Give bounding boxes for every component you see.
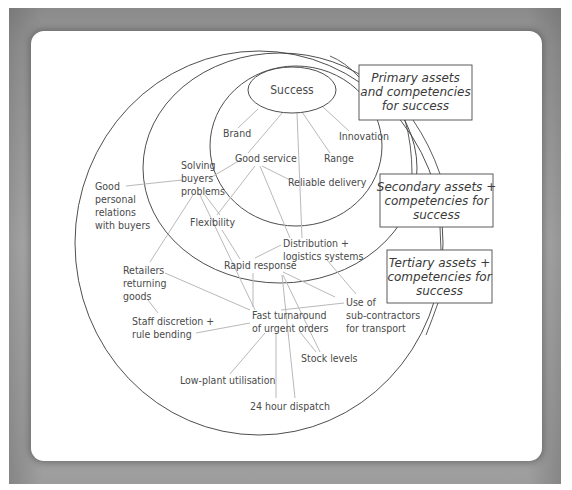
legend-box-tertiary: Tertiary assets +competencies forsuccess <box>387 250 493 303</box>
legend-box-line: Primary assets <box>371 71 460 85</box>
node-rapid-response: Rapid response <box>224 259 297 271</box>
node-label-line: Use of <box>346 296 376 308</box>
connector-distribution-logistics-to-rapid-response <box>255 245 281 258</box>
node-label-line: Low-plant utilisation <box>180 374 275 386</box>
node-flexibility: Flexibility <box>190 216 235 228</box>
node-innovation: Innovation <box>339 130 389 142</box>
legend-box-line: competencies for <box>384 194 489 208</box>
node-label-line: 24 hour dispatch <box>250 400 330 412</box>
connector-solving-buyers-problems-to-good-personal-relations <box>126 180 182 186</box>
connector-success-to-good-service <box>248 112 283 153</box>
node-low-plant-utilisation: Low-plant utilisation <box>180 374 275 386</box>
node-label-line: Staff discretion + <box>132 315 214 327</box>
node-retailers-returning-goods: Retailersreturninggoods <box>123 264 166 302</box>
success-label: Success <box>270 83 314 97</box>
connector-success-to-brand <box>238 109 258 128</box>
connector-fast-turnaround-to-stock-levels <box>300 332 316 352</box>
connector-solving-buyers-problems-to-flexibility <box>205 195 220 215</box>
node-label-line: with buyers <box>95 219 150 231</box>
node-label-line: for transport <box>346 322 406 334</box>
node-fast-turnaround: Fast turnaroundof urgent orders <box>252 309 328 334</box>
node-brand: Brand <box>223 127 251 139</box>
node-label-line: personal <box>95 193 136 205</box>
legend-box-line: competencies for <box>387 270 492 284</box>
legend-box-line: Secondary assets + <box>377 180 496 194</box>
node-label-line: Reliable delivery <box>288 176 367 188</box>
connector-flexibility-to-rapid-response <box>222 230 240 259</box>
legend-box-line: Tertiary assets + <box>389 256 490 270</box>
connector-distribution-logistics-to-use-of-subcontractors <box>327 260 356 294</box>
tertiary-leader <box>440 227 441 250</box>
node-label-line: goods <box>123 290 152 302</box>
connector-good-service-to-reliable-delivery <box>262 166 290 180</box>
node-24-hour-dispatch: 24 hour dispatch <box>250 400 330 412</box>
legend-box-line: for success <box>382 99 449 113</box>
node-label-line: Rapid response <box>224 259 297 271</box>
node-label-line: sub-contractors <box>346 309 420 321</box>
node-label-line: Brand <box>223 127 251 139</box>
node-label-line: Solving <box>181 159 216 171</box>
node-labels: BrandInnovationGood serviceRangeReliable… <box>95 127 420 412</box>
node-label-line: returning <box>123 277 166 289</box>
node-good-service: Good service <box>235 152 297 164</box>
node-label-line: Innovation <box>339 130 389 142</box>
connector-fast-turnaround-to-low-plant-utilisation <box>230 333 265 374</box>
node-label-line: relations <box>95 206 136 218</box>
node-label-line: Good service <box>235 152 297 164</box>
legend-box-secondary: Secondary assets +competencies forsucces… <box>377 174 496 227</box>
node-label-line: Distribution + <box>283 237 349 249</box>
connector-success-to-innovation <box>323 107 349 131</box>
connector-success-to-range <box>302 112 330 153</box>
node-good-personal-relations: Goodpersonalrelationswith buyers <box>95 180 150 231</box>
connector-good-service-to-distribution-logistics <box>260 166 290 238</box>
node-reliable-delivery: Reliable delivery <box>288 176 367 188</box>
success-node: Success <box>248 67 336 113</box>
legend-box-line: success <box>413 208 460 222</box>
legend-box-line: success <box>416 284 463 298</box>
node-label-line: Flexibility <box>190 216 235 228</box>
node-label-line: problems <box>181 185 225 197</box>
connector-rapid-response-to-24-hour-dispatch <box>282 275 295 398</box>
node-range: Range <box>324 152 354 164</box>
node-solving-buyers-problems: Solvingbuyersproblems <box>181 159 225 197</box>
node-label-line: rule bending <box>132 328 192 340</box>
node-staff-discretion: Staff discretion +rule bending <box>132 315 214 340</box>
node-stock-levels: Stock levels <box>301 352 358 364</box>
legend-box-primary: Primary assetsand competenciesfor succes… <box>359 65 472 120</box>
node-label-line: Fast turnaround <box>252 309 326 321</box>
node-label-line: Stock levels <box>301 352 358 364</box>
node-label-line: Range <box>324 152 354 164</box>
legend-box-line: and competencies <box>360 85 470 99</box>
node-label-line: buyers <box>181 172 213 184</box>
node-label-line: Good <box>95 180 120 192</box>
node-label-line: Retailers <box>123 264 164 276</box>
legend-boxes: Primary assetsand competenciesfor succes… <box>359 65 496 303</box>
connector-solving-buyers-problems-to-fast-turnaround <box>200 195 255 310</box>
assets-competencies-diagram: Success BrandInnovationGood serviceRange… <box>0 0 572 490</box>
connector-retailers-returning-goods-to-fast-turnaround <box>165 273 250 310</box>
node-label-line: of urgent orders <box>252 322 328 334</box>
